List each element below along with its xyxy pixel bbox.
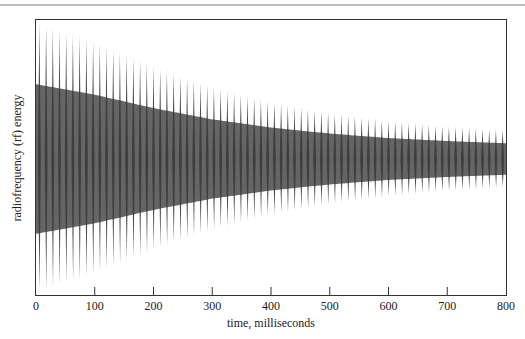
waveform-cycle: [246, 96, 249, 221]
waveform-cycle: [273, 103, 276, 215]
waveform-cycle: [374, 119, 377, 198]
waveform-cycle: [112, 50, 115, 266]
waveform-cycle: [394, 122, 397, 196]
waveform-cycle: [401, 122, 404, 195]
waveform-cycle: [293, 106, 296, 211]
waveform-cycle: [333, 114, 336, 204]
waveform-cycle: [38, 24, 41, 291]
waveform-cycle: [414, 123, 417, 193]
waveform-cycle: [219, 89, 222, 227]
x-tick-label: 700: [438, 299, 456, 313]
waveform-cycle: [92, 42, 95, 275]
x-tick-label: 300: [203, 299, 221, 313]
x-ticks: [95, 287, 448, 295]
waveform-cycle: [307, 109, 310, 209]
waveform-cycle: [186, 78, 189, 238]
waveform-cycle: [421, 124, 424, 193]
waveform-cycle: [367, 118, 370, 199]
waveform-cycle: [347, 115, 350, 202]
waveform-cycle: [139, 61, 142, 255]
waveform-cycle: [286, 105, 289, 212]
waveform-cycle: [354, 116, 357, 201]
x-tick-label: 800: [497, 299, 515, 313]
waveform: [36, 24, 506, 291]
x-tick-label: 400: [262, 299, 280, 313]
waveform-cycle: [166, 71, 169, 245]
x-axis-label: time, milliseconds: [227, 316, 315, 330]
x-tick-label: 200: [145, 299, 163, 313]
waveform-cycle: [407, 123, 410, 195]
waveform-cycle: [58, 31, 61, 285]
waveform-cycle: [213, 87, 216, 229]
waveform-cycle: [206, 85, 209, 231]
waveform-cycle: [179, 76, 182, 241]
waveform-cycle: [488, 129, 491, 188]
waveform-cycle: [78, 37, 81, 278]
waveform-cycle: [199, 83, 202, 234]
waveform-cycle: [192, 81, 195, 236]
waveform-cycle: [300, 108, 303, 210]
waveform-cycle: [239, 94, 242, 222]
waveform-cycle: [98, 44, 101, 272]
waveform-cycle: [51, 28, 54, 287]
x-tick-label: 100: [86, 299, 104, 313]
waveform-cycle: [495, 130, 498, 188]
waveform-cycle: [380, 120, 383, 197]
y-axis-label: radiofrequency (rf) energy: [10, 94, 24, 221]
waveform-cycle: [85, 39, 88, 276]
waveform-cycle: [360, 117, 363, 200]
waveform-cycle: [159, 69, 162, 247]
waveform-cycle: [474, 128, 477, 189]
waveform-cycle: [45, 26, 48, 289]
waveform-cycle: [427, 125, 430, 193]
waveform-cycle: [448, 127, 451, 191]
waveform-cycle: [260, 99, 263, 217]
waveform-cycle: [327, 112, 330, 204]
waveform-cycle: [461, 127, 464, 190]
waveform-cycle: [65, 33, 68, 283]
x-tick-label: 0: [33, 299, 39, 313]
chart: 0100200300400500600700800 time, millisec…: [0, 0, 525, 339]
waveform-cycle: [481, 129, 484, 189]
waveform-cycle: [441, 126, 444, 191]
waveform-cycle: [468, 128, 471, 190]
waveform-cycle: [313, 110, 316, 207]
x-tick-label: 500: [321, 299, 339, 313]
waveform-cycle: [145, 64, 148, 253]
x-tick-labels: 0100200300400500600700800: [33, 299, 515, 313]
waveform-cycle: [320, 111, 323, 206]
waveform-cycle: [280, 104, 283, 213]
waveform-cycle: [253, 98, 256, 220]
waveform-cycle: [125, 55, 128, 260]
waveform-cycle: [152, 67, 155, 250]
waveform-cycle: [340, 114, 343, 202]
x-tick-label: 600: [380, 299, 398, 313]
waveform-cycle: [72, 35, 75, 281]
waveform-cycle: [226, 91, 229, 226]
waveform-cycle: [501, 130, 504, 187]
waveform-cycle: [233, 93, 236, 225]
waveform-cycle: [105, 47, 108, 269]
waveform-cycle: [434, 125, 437, 192]
waveform-cycle: [132, 58, 135, 258]
waveform-cycle: [387, 121, 390, 196]
waveform-cycle: [172, 74, 175, 243]
waveform-cycle: [266, 101, 269, 216]
waveform-cycle: [119, 53, 122, 264]
waveform-cycle: [454, 127, 457, 190]
